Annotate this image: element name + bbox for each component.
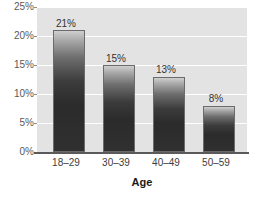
bar-50-59 bbox=[203, 106, 235, 152]
bar-40-49 bbox=[153, 77, 185, 152]
x-axis-line bbox=[34, 152, 249, 154]
data-label-50-59: 8% bbox=[187, 93, 245, 104]
bar-chart: 25% 20% 15% 10% 5% 0% 21% 15% 13% 8% 18–… bbox=[0, 0, 259, 198]
y-tick-label-25: 25% bbox=[2, 2, 34, 12]
y-tick-label-15: 15% bbox=[2, 60, 34, 70]
data-label-18-29: 21% bbox=[37, 18, 95, 29]
y-tick-label-20: 20% bbox=[2, 31, 34, 41]
x-tick-label-50-59: 50–59 bbox=[183, 157, 249, 169]
gridline-25 bbox=[37, 7, 247, 8]
y-tick-label-10: 10% bbox=[2, 89, 34, 99]
x-axis-title: Age bbox=[37, 176, 247, 188]
data-label-30-39: 15% bbox=[87, 53, 145, 64]
bar-30-39 bbox=[103, 65, 135, 152]
y-tick-label-5: 5% bbox=[2, 118, 34, 128]
y-tick-label-0: 0% bbox=[2, 147, 34, 157]
data-label-40-49: 13% bbox=[137, 64, 195, 75]
y-axis: 25% 20% 15% 10% 5% 0% bbox=[0, 0, 34, 198]
bar-18-29 bbox=[53, 30, 85, 152]
